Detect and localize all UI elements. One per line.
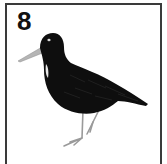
bird-illustration <box>0 0 167 164</box>
bird-eye <box>47 39 50 41</box>
bird-legs <box>64 108 100 146</box>
bird-body <box>40 33 148 114</box>
